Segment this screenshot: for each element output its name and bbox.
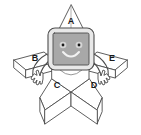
label-a: A (68, 16, 75, 26)
label-e: E (109, 53, 115, 63)
label-d: D (91, 80, 98, 90)
monitor-head (48, 28, 94, 70)
right-eye-icon (76, 42, 83, 48)
illustration-canvas: A B C D E (0, 0, 141, 135)
left-eye-icon (60, 42, 67, 48)
monitor-screen (53, 33, 89, 65)
label-b: B (32, 53, 39, 63)
label-c: C (54, 80, 61, 90)
star-character-illustration: A B C D E (0, 0, 141, 135)
